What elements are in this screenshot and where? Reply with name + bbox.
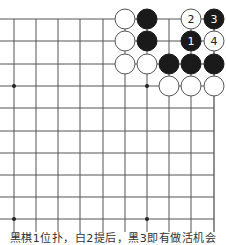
black-stone-1: 1 <box>181 31 201 51</box>
white-stone-4: 4 <box>204 31 224 51</box>
move-number-label: 3 <box>211 13 218 26</box>
go-board: 2314 <box>0 0 226 232</box>
star-point-icon <box>145 217 149 221</box>
grid-lines <box>0 19 214 232</box>
diagram-caption: 黑棋1位扑，白2提后，黑3即有做活机会 <box>0 229 226 245</box>
black-stone <box>159 54 179 74</box>
star-point-icon <box>12 84 16 88</box>
white-stone-icon <box>181 76 201 96</box>
black-stone-icon <box>137 31 157 51</box>
black-stone <box>137 31 157 51</box>
black-stone <box>204 54 224 74</box>
white-stone-2: 2 <box>181 9 201 29</box>
black-stone <box>137 9 157 29</box>
move-number-label: 2 <box>188 13 195 26</box>
black-stone <box>181 54 201 74</box>
white-stone <box>115 31 135 51</box>
black-stone-icon <box>204 54 224 74</box>
black-stone-icon <box>181 54 201 74</box>
star-point-icon <box>145 84 149 88</box>
move-number-label: 1 <box>188 35 195 48</box>
white-stone-icon <box>115 9 135 29</box>
white-stone <box>204 76 224 96</box>
white-stone <box>115 54 135 74</box>
white-stone <box>137 54 157 74</box>
move-number-label: 4 <box>211 35 218 48</box>
black-stone-icon <box>159 54 179 74</box>
white-stone-icon <box>204 76 224 96</box>
white-stone <box>159 76 179 96</box>
black-stone-icon <box>137 9 157 29</box>
white-stone <box>181 76 201 96</box>
white-stone-icon <box>115 54 135 74</box>
white-stone-icon <box>115 31 135 51</box>
white-stone <box>115 9 135 29</box>
white-stone-icon <box>159 76 179 96</box>
white-stone-icon <box>137 54 157 74</box>
black-stone-3: 3 <box>204 9 224 29</box>
star-point-icon <box>12 217 16 221</box>
